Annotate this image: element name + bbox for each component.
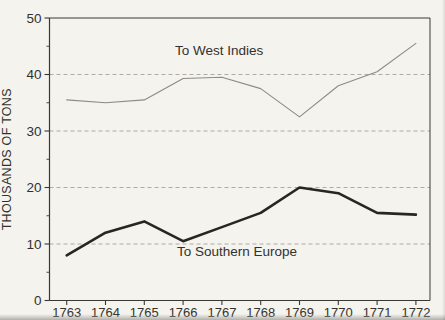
y-tick-label-40: 40 — [26, 67, 41, 82]
y-tick-label-0: 0 — [34, 293, 42, 308]
x-tick-label-1763: 1763 — [52, 305, 81, 320]
x-tick-label-1766: 1766 — [169, 305, 198, 320]
y-tick-label-30: 30 — [26, 124, 41, 139]
x-tick-label-1768: 1768 — [246, 305, 275, 320]
y-axis-title: THOUSANDS OF TONS — [0, 88, 14, 230]
y-tick-label-20: 20 — [26, 180, 41, 195]
annotation-to-west-indies: To West Indies — [175, 43, 264, 58]
page: 0102030405017631764176517661767176817691… — [0, 0, 445, 320]
x-tick-label-1765: 1765 — [130, 305, 159, 320]
y-tick-label-50: 50 — [26, 11, 41, 26]
x-tick-label-1770: 1770 — [324, 305, 353, 320]
y-tick-label-10: 10 — [26, 237, 41, 252]
annotation-to-southern-europe: To Southern Europe — [177, 244, 297, 259]
trade-exports-line-chart: 0102030405017631764176517661767176817691… — [0, 0, 445, 320]
x-tick-label-1764: 1764 — [91, 305, 120, 320]
x-tick-label-1772: 1772 — [401, 305, 430, 320]
x-tick-label-1769: 1769 — [285, 305, 314, 320]
x-tick-label-1767: 1767 — [207, 305, 236, 320]
chart-canvas: 0102030405017631764176517661767176817691… — [0, 0, 445, 320]
x-tick-label-1771: 1771 — [363, 305, 392, 320]
